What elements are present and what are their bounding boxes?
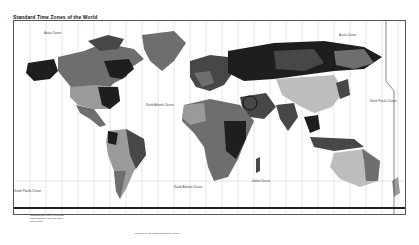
map-credit: Prepared by the Central Intelligence Age… bbox=[135, 232, 180, 234]
alaska bbox=[26, 59, 58, 81]
world-map-frame: Arctic Ocean Arctic Ocean North Atlantic… bbox=[13, 20, 406, 215]
ocean-label: Arctic Ocean bbox=[44, 31, 61, 35]
greenland bbox=[142, 31, 186, 71]
ocean-label: Arctic Ocean bbox=[339, 33, 356, 37]
india bbox=[276, 103, 298, 131]
southeast-asia bbox=[304, 115, 320, 133]
world-map-svg bbox=[14, 21, 406, 215]
madagascar bbox=[256, 157, 260, 173]
ocean-label: Indian Ocean bbox=[252, 179, 270, 183]
ocean-label: South Pacific Ocean bbox=[14, 189, 41, 193]
bottom-bar bbox=[14, 207, 406, 209]
legend-line: Time zones bbox=[30, 220, 64, 223]
ocean-label: North Pacific Ocean bbox=[370, 99, 397, 103]
ocean-label: North Atlantic Ocean bbox=[146, 103, 174, 107]
map-legend: Standard time zone: even hour Standard t… bbox=[30, 214, 64, 223]
ocean-label: South Atlantic Ocean bbox=[174, 185, 202, 189]
new-zealand bbox=[392, 177, 400, 197]
